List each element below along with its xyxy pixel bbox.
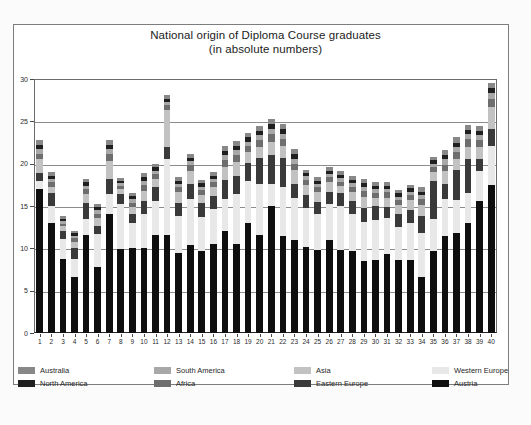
bar-segment: [453, 170, 460, 200]
legend-label: Africa: [176, 379, 195, 388]
bar-segment: [465, 139, 472, 147]
bar-stack: [245, 133, 252, 333]
legend-item[interactable]: Austria: [432, 379, 477, 388]
x-axis-tick-mark: [456, 334, 457, 337]
bar-stack: [314, 177, 321, 333]
bar-segment: [314, 192, 321, 201]
legend-swatch-icon: [294, 367, 311, 374]
bar-segment: [384, 207, 391, 218]
bar-segment: [222, 199, 229, 231]
bar-segment: [210, 196, 217, 209]
bar-segment: [222, 160, 229, 167]
bar-segment: [245, 163, 252, 181]
x-axis-tick-mark: [445, 334, 446, 337]
bar-segment: [256, 235, 263, 333]
bar-stack: [407, 185, 414, 333]
bar-segment: [48, 206, 55, 223]
legend-item[interactable]: Africa: [154, 379, 195, 388]
bar-segment: [129, 223, 136, 248]
bar-segment: [418, 277, 425, 333]
bar-segment: [164, 235, 171, 333]
legend-item[interactable]: South America: [154, 366, 225, 375]
bar-segment: [465, 147, 472, 160]
x-axis-tick-mark: [109, 334, 110, 337]
legend-item[interactable]: Asia: [294, 366, 331, 375]
x-axis-tick-mark: [318, 334, 319, 337]
bar-segment: [83, 194, 90, 203]
bar-segment: [291, 240, 298, 333]
bar-segment: [326, 240, 333, 333]
bar-segment: [117, 194, 124, 204]
bar-segment: [106, 194, 113, 214]
bar-segment: [141, 201, 148, 214]
bar-stack: [94, 204, 101, 333]
bar-segment: [175, 216, 182, 252]
legend-item[interactable]: Australia: [18, 366, 69, 375]
gridline: [35, 165, 496, 166]
bar-segment: [337, 206, 344, 250]
x-axis-tick-mark: [75, 334, 76, 337]
gridline: [35, 122, 496, 123]
y-axis-tick-mark: [30, 291, 34, 292]
legend-item[interactable]: North America: [18, 379, 88, 388]
bar-segment: [430, 172, 437, 180]
bar-segment: [326, 182, 333, 191]
x-axis-tick-mark: [410, 334, 411, 337]
bar-stack: [198, 180, 205, 333]
x-axis-tick-mark: [399, 334, 400, 337]
x-axis-tick-mark: [213, 334, 214, 337]
bar-segment: [453, 233, 460, 333]
plot-area: [34, 79, 497, 333]
bar-segment: [268, 142, 275, 156]
bar-segment: [280, 187, 287, 236]
bar-segment: [245, 181, 252, 223]
bar-stack: [488, 83, 495, 333]
bar-segment: [430, 219, 437, 251]
bar-segment: [256, 140, 263, 147]
legend-swatch-icon: [154, 367, 171, 374]
bar-segment: [187, 199, 194, 245]
bar-segment: [164, 147, 171, 159]
bar-segment: [256, 158, 263, 184]
bar-segment: [106, 161, 113, 179]
bar-segment: [210, 209, 217, 245]
legend-label: Australia: [40, 366, 69, 375]
bar-segment: [465, 223, 472, 333]
bar-stack: [187, 154, 194, 333]
legend-item[interactable]: Western Europe: [432, 366, 508, 375]
bar-segment: [395, 205, 402, 213]
bar-segment: [187, 184, 194, 199]
bar-segment: [337, 250, 344, 333]
bar-segment: [361, 261, 368, 333]
bar-segment: [268, 206, 275, 333]
legend-label: Eastern Europe: [316, 379, 368, 388]
bar-segment: [314, 214, 321, 250]
bar-stack: [129, 193, 136, 333]
y-axis-tick-label: 0: [8, 330, 28, 337]
bar-segment: [129, 214, 136, 223]
x-axis-tick-mark: [352, 334, 353, 337]
bar-segment: [36, 173, 43, 181]
bar-segment: [175, 192, 182, 202]
gridline: [35, 207, 496, 208]
bar-segment: [175, 203, 182, 217]
bar-segment: [488, 107, 495, 129]
bar-segment: [94, 226, 101, 234]
bar-segment: [94, 218, 101, 226]
bar-stack: [256, 126, 263, 333]
bar-segment: [407, 223, 414, 260]
bar-segment: [256, 147, 263, 158]
x-axis-tick-mark: [433, 334, 434, 337]
bar-segment: [384, 218, 391, 254]
bar-segment: [361, 222, 368, 261]
y-axis-tick-mark: [30, 333, 34, 334]
bar-segment: [442, 199, 449, 235]
plot-wrapper: 0510152025301234567891011121314151617181…: [0, 0, 531, 425]
bar-stack: [476, 126, 483, 333]
bar-stack: [164, 95, 171, 333]
bar-segment: [198, 217, 205, 251]
bar-segment: [442, 165, 449, 172]
legend-item[interactable]: Eastern Europe: [294, 379, 368, 388]
bar-segment: [303, 185, 310, 195]
bar-segment: [48, 193, 55, 206]
